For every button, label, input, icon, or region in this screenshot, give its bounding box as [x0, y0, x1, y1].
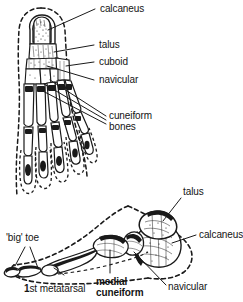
lateral-view	[4, 206, 192, 284]
label-navicular-top: navicular	[99, 75, 138, 86]
navicular-bone-dorsal	[26, 58, 59, 69]
label-medial-cuneiform-line2: cuneiform	[96, 288, 143, 299]
label-talus-top: talus	[99, 40, 120, 51]
label-calcaneus-top: calcaneus	[100, 4, 144, 15]
label-big-toe: 'big' toe	[6, 233, 39, 244]
talus-bone-lateral	[139, 210, 177, 239]
label-calcaneus-bottom: calcaneus	[199, 230, 243, 241]
leader-bigtoe-1	[15, 247, 25, 266]
foot-anatomy-diagram	[0, 0, 243, 302]
label-talus-bottom: talus	[183, 187, 204, 198]
label-cuboid-top: cuboid	[99, 57, 128, 68]
medial-cuneiform-bone-lateral	[93, 235, 128, 258]
label-first-metatarsal: 1st metatarsal	[24, 284, 85, 295]
leader-cuboid-top	[66, 62, 94, 66]
leader-bigtoe-2	[30, 247, 38, 268]
label-cuneiform-bones-line1: cuneiform	[109, 111, 152, 122]
leader-talus-top	[54, 45, 94, 52]
label-navicular-bottom: navicular	[168, 282, 207, 293]
label-first-metatarsal-rest: st metatarsal	[29, 283, 85, 294]
first-metatarsal-bone-lateral	[42, 248, 97, 276]
label-cuneiform-bones-line2: bones	[109, 122, 136, 133]
label-medial-cuneiform-line1: medial	[96, 277, 127, 288]
calcaneus-bone-dorsal	[34, 17, 50, 44]
